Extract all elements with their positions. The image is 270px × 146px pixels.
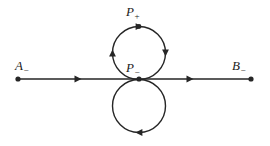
label-a-minus-subscript: − bbox=[23, 66, 28, 75]
upper-circle-arrow-left-icon bbox=[109, 49, 116, 56]
point-dot-b-minus bbox=[248, 76, 253, 81]
point-dot-a-minus bbox=[15, 76, 20, 81]
label-p-plus-subscript: + bbox=[134, 12, 139, 21]
label-b-minus-subscript: − bbox=[240, 66, 245, 75]
lower-circle bbox=[113, 80, 166, 133]
label-p-plus-base: P bbox=[126, 4, 134, 19]
label-p-minus-base: P bbox=[126, 60, 134, 75]
point-dot-p-plus bbox=[137, 24, 142, 29]
point-dot-p-minus bbox=[136, 76, 141, 81]
label-a-minus: A− bbox=[15, 57, 29, 75]
line-arrow-left-icon bbox=[75, 76, 82, 83]
label-b-minus-base: B bbox=[232, 58, 240, 73]
figure-canvas: P+ P− A− B− bbox=[0, 0, 270, 146]
label-a-minus-base: A bbox=[15, 58, 23, 73]
label-p-minus-subscript: − bbox=[134, 68, 139, 77]
line-arrow-right-icon bbox=[187, 76, 194, 83]
label-b-minus: B− bbox=[232, 57, 246, 75]
label-p-plus: P+ bbox=[126, 3, 140, 21]
lower-circle-arrow-bottom-icon bbox=[135, 129, 142, 136]
upper-circle-arrow-right-icon bbox=[162, 50, 169, 57]
label-p-minus: P− bbox=[126, 59, 140, 77]
